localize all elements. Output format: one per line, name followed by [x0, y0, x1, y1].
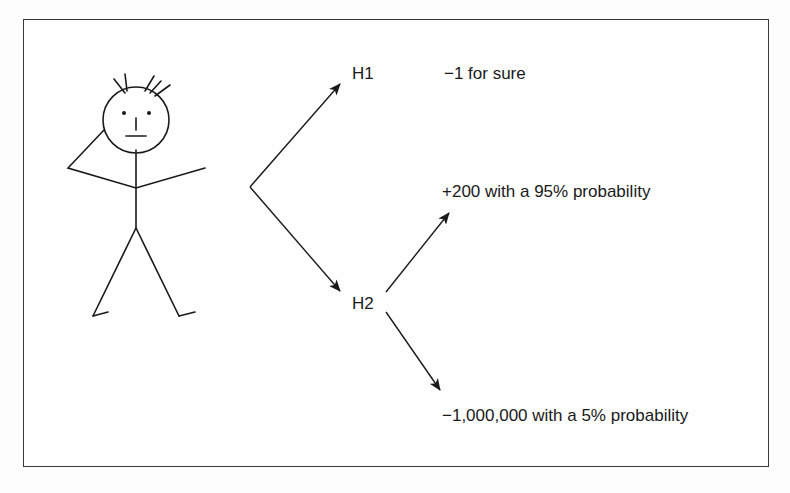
arrow-to-h2-icon [250, 187, 340, 291]
outcome-h2-gain-label: +200 with a 95% probability [442, 183, 650, 200]
stick-figure [68, 74, 205, 316]
arrow-to-gain-icon [386, 213, 449, 292]
hair-icon [114, 74, 170, 96]
node-h2-label: H2 [352, 295, 374, 312]
legs-icon [93, 228, 179, 316]
outcome-h1-label: −1 for sure [444, 65, 526, 82]
arrow-to-h1-icon [250, 84, 340, 187]
branch-arrows [250, 84, 449, 390]
arrow-to-loss-icon [386, 312, 440, 390]
node-h1-label: H1 [352, 65, 374, 82]
outcome-h2-loss-label: −1,000,000 with a 5% probability [442, 407, 688, 424]
